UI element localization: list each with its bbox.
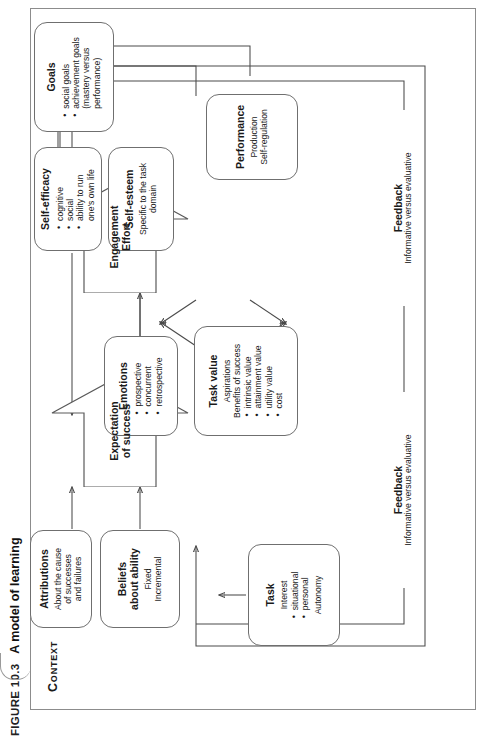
figure-page: Figure 10.3 A model of learning Context bbox=[0, 0, 484, 736]
node-attributions-line-1: of successes bbox=[63, 554, 73, 604]
node-task-line-0: Interest bbox=[279, 581, 289, 610]
node-task-title: Task bbox=[265, 583, 277, 606]
list-item: cost bbox=[274, 345, 284, 416]
node-self-esteem-line-1: domain bbox=[148, 185, 158, 213]
node-self-esteem-line-0: Specific to the task bbox=[138, 163, 148, 235]
list-item: intrinsic value bbox=[243, 345, 253, 416]
feedback-label-right: Feedback Informative versus evaluative bbox=[392, 110, 414, 306]
node-performance[interactable]: Performance Production Self-regulation bbox=[206, 94, 298, 180]
node-beliefs-line-0: Fixed bbox=[143, 569, 153, 590]
node-attributions-line-2: and failures bbox=[73, 557, 83, 601]
list-item: retrospective bbox=[154, 357, 164, 414]
list-item: ability to run bbox=[75, 169, 85, 229]
node-task-value[interactable]: Task value Aspirations Benefits of succe… bbox=[194, 326, 298, 436]
node-goals-title: Goals bbox=[46, 62, 58, 91]
node-task-bullets: situational personal bbox=[290, 572, 311, 619]
node-performance-line-0: Production bbox=[249, 116, 259, 157]
list-item: cognitive bbox=[55, 169, 65, 229]
node-self-efficacy[interactable]: Self-efficacy cognitive social ability t… bbox=[34, 147, 102, 251]
node-beliefs-line-1: Incremental bbox=[153, 557, 163, 602]
node-attributions-title: Attributions bbox=[39, 549, 51, 609]
list-item: prospective bbox=[133, 357, 143, 414]
node-performance-line-1: Self-regulation bbox=[259, 109, 269, 164]
expectation-of-success-label: Expectation of success bbox=[108, 401, 132, 461]
node-self-efficacy-bullets: cognitive social ability to run one's ow… bbox=[55, 169, 96, 229]
list-item: social bbox=[65, 169, 75, 229]
node-goals-bullets: social goals achievement goals (mastery … bbox=[61, 37, 102, 117]
node-task[interactable]: Task Interest situational personal Auton… bbox=[248, 544, 340, 646]
feedback-left-subtitle: Informative versus evaluative bbox=[404, 395, 414, 585]
node-beliefs-about-ability[interactable]: Beliefs about ability Fixed Incremental bbox=[100, 530, 180, 628]
list-item-continuation: performance) bbox=[92, 37, 102, 117]
node-task-tail-0: Autonomy bbox=[313, 576, 323, 615]
list-item: social goals bbox=[61, 37, 71, 117]
list-item: utility value bbox=[264, 345, 274, 416]
feedback-label-left: Feedback Informative versus evaluative bbox=[392, 392, 414, 588]
node-task-value-title: Task value bbox=[208, 355, 220, 408]
node-task-value-line-1: Benefits of success bbox=[232, 344, 242, 418]
node-performance-title: Performance bbox=[235, 105, 247, 169]
node-goals[interactable]: Goals social goals achievement goals (ma… bbox=[34, 22, 114, 132]
node-attributions-line-0: About the cause bbox=[53, 548, 63, 610]
engagement-effort-label: Engagement Effort bbox=[108, 206, 132, 269]
node-self-efficacy-title: Self-efficacy bbox=[40, 168, 52, 230]
list-item: concurrent bbox=[143, 357, 153, 414]
node-task-value-line-0: Aspirations bbox=[222, 360, 232, 403]
node-emotions-bullets: prospective concurrent retrospective bbox=[133, 357, 164, 414]
rotated-figure-stage: Figure 10.3 A model of learning Context bbox=[0, 0, 484, 736]
list-item-continuation: (mastery versus bbox=[81, 37, 91, 117]
list-item-continuation: one's own life bbox=[86, 169, 96, 229]
list-item: situational bbox=[290, 572, 300, 619]
node-attributions[interactable]: Attributions About the cause of successe… bbox=[30, 530, 92, 628]
feedback-right-subtitle: Informative versus evaluative bbox=[404, 113, 414, 303]
node-beliefs-title: Beliefs about ability bbox=[117, 548, 141, 610]
list-item: personal bbox=[300, 572, 310, 619]
list-item: attainment value bbox=[253, 345, 263, 416]
list-item: achievement goals bbox=[71, 37, 81, 117]
node-task-value-bullets: intrinsic value attainment value utility… bbox=[243, 345, 284, 416]
